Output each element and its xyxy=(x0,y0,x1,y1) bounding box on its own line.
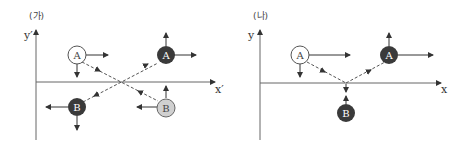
svg-text:A: A xyxy=(295,50,304,61)
svg-text:A: A xyxy=(72,50,81,61)
collision-diagram-na: A A B xyxy=(235,0,471,149)
svg-text:B: B xyxy=(73,102,80,113)
svg-text:B: B xyxy=(162,103,169,114)
svg-text:A: A xyxy=(384,50,393,61)
svg-text:A: A xyxy=(161,50,170,61)
diagram-panel-ga: (가) y′ x′ A A B xyxy=(0,0,235,149)
collision-diagram-ga: A A B B xyxy=(0,0,235,149)
diagram-panel-na: (나) y x A A B xyxy=(235,0,471,149)
svg-text:B: B xyxy=(342,108,349,119)
